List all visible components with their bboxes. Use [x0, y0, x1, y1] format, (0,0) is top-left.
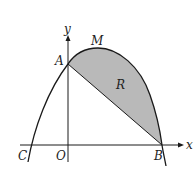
point-a-label: A: [54, 54, 64, 68]
point-b-label: B: [153, 149, 163, 163]
region-r-label: R: [115, 78, 125, 92]
x-axis-label: x: [186, 138, 193, 152]
region-r-shading: [68, 48, 162, 145]
y-axis-label: y: [63, 22, 71, 36]
point-c-label: C: [18, 149, 27, 163]
diagram-canvas: y x M A R C O B: [0, 0, 195, 177]
point-m-label: M: [90, 34, 104, 48]
curve-region-diagram: y x M A R C O B: [0, 0, 195, 177]
origin-label: O: [56, 149, 66, 163]
x-axis-arrow-icon: [178, 143, 184, 148]
